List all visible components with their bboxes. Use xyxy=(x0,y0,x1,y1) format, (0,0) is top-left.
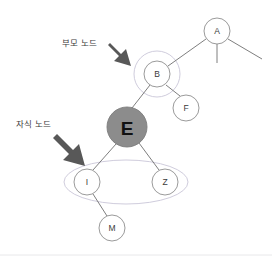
node-B[interactable]: B xyxy=(144,61,170,87)
edge-B-E xyxy=(132,85,150,108)
node-A[interactable]: A xyxy=(204,18,230,44)
child-node-annotation-label: 자식 노드 xyxy=(16,117,51,129)
node-E-label: E xyxy=(121,118,134,139)
child-annotation-arrow-icon xyxy=(53,134,85,166)
parent-annotation-arrow-icon xyxy=(108,43,131,66)
node-E[interactable]: E xyxy=(107,107,147,147)
node-Z-label: Z xyxy=(162,177,167,187)
node-Z[interactable]: Z xyxy=(152,169,178,195)
node-F-label: F xyxy=(183,103,188,113)
node-M[interactable]: M xyxy=(99,215,125,241)
edge-A-stub-right xyxy=(228,39,262,59)
edge-I-M xyxy=(93,194,107,216)
node-M-label: M xyxy=(108,223,115,233)
diagram-canvas: A B F E I Z M xyxy=(0,0,272,263)
node-I-label: I xyxy=(86,177,88,187)
parent-node-annotation-label: 부모 노드 xyxy=(62,36,97,48)
edge-A-B xyxy=(168,39,206,66)
node-A-label: A xyxy=(214,26,220,36)
edge-E-Z xyxy=(139,143,159,170)
node-F[interactable]: F xyxy=(173,95,199,121)
edge-E-I xyxy=(93,144,116,170)
tree-diagram-svg: A B F E I Z M xyxy=(0,0,272,263)
node-B-label: B xyxy=(154,69,160,79)
node-I[interactable]: I xyxy=(74,169,100,195)
